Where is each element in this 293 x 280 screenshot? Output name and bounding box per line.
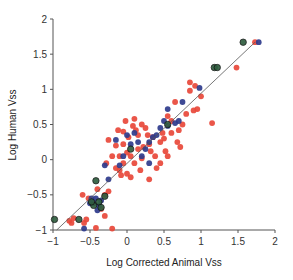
data-point	[128, 174, 134, 180]
data-point	[161, 136, 167, 142]
data-point	[146, 160, 152, 166]
x-tick-label: 0.5	[157, 236, 171, 247]
data-point	[176, 127, 182, 133]
data-point	[163, 148, 169, 154]
data-point	[120, 153, 126, 159]
data-point	[177, 144, 183, 150]
y-tick-label: 1.5	[33, 49, 47, 60]
data-point	[194, 106, 200, 112]
y-tick-label: −1	[36, 225, 48, 236]
data-point	[115, 127, 121, 133]
x-tick-label: 2	[272, 236, 278, 247]
data-point	[180, 99, 186, 105]
data-point	[148, 148, 154, 154]
data-point	[139, 153, 145, 159]
data-point	[76, 216, 82, 222]
y-tick-label: 0	[41, 154, 47, 165]
data-point	[80, 192, 86, 198]
data-point	[102, 162, 108, 168]
x-tick-label: 0	[124, 236, 130, 247]
data-point	[135, 139, 141, 145]
data-point	[187, 88, 193, 94]
data-point	[165, 106, 171, 112]
data-point	[98, 204, 104, 210]
x-ticks: −1−0.500.511.52	[47, 230, 278, 247]
data-point	[118, 172, 124, 178]
y-ticks: −1−0.500.511.52	[27, 14, 53, 236]
data-point	[152, 153, 158, 159]
data-point	[174, 139, 180, 145]
data-point	[106, 137, 112, 143]
y-tick-label: 1	[41, 84, 47, 95]
data-point	[209, 120, 215, 126]
data-point	[145, 132, 151, 138]
x-tick-label: 1	[198, 236, 204, 247]
data-point	[139, 122, 145, 128]
data-point	[143, 146, 149, 152]
data-point	[187, 79, 193, 85]
data-point	[172, 99, 178, 105]
x-tick-label: 1.5	[231, 236, 245, 247]
data-point	[102, 193, 108, 199]
data-point	[198, 93, 204, 99]
data-point	[197, 85, 203, 91]
data-point	[113, 137, 119, 143]
data-point	[214, 64, 220, 70]
data-point	[137, 167, 143, 173]
data-point	[132, 160, 138, 166]
data-point	[81, 226, 87, 232]
data-point	[234, 65, 240, 71]
data-point	[51, 216, 57, 222]
data-point	[83, 217, 89, 223]
data-point	[132, 130, 138, 136]
y-tick-label: −0.5	[27, 189, 47, 200]
data-point	[113, 143, 119, 149]
data-point	[256, 39, 262, 45]
data-point	[124, 132, 130, 138]
data-point	[109, 226, 115, 232]
data-point	[123, 118, 129, 124]
axes: −1−0.500.511.52 −1−0.500.511.52	[27, 14, 278, 248]
data-point	[109, 153, 115, 159]
data-point	[102, 213, 108, 219]
data-point	[117, 162, 123, 168]
data-point	[120, 141, 126, 147]
data-point	[157, 160, 163, 166]
data-point	[146, 176, 152, 182]
data-point	[183, 111, 189, 117]
x-tick-label: −1	[47, 236, 59, 247]
data-point	[169, 130, 175, 136]
unity-reference-line	[57, 42, 255, 230]
y-tick-label: 0.5	[33, 119, 47, 130]
data-point	[69, 220, 75, 226]
data-point	[93, 225, 99, 231]
y-tick-label: 2	[41, 14, 47, 25]
x-axis-label: Log Corrected Animal Vss	[106, 257, 222, 268]
data-point	[240, 39, 246, 45]
data-point	[154, 165, 160, 171]
data-point	[176, 118, 182, 124]
data-point	[93, 178, 99, 184]
data-point	[128, 146, 134, 152]
data-point	[165, 113, 171, 119]
data-point	[132, 116, 138, 122]
y-axis-label: Log Human Vss	[7, 89, 18, 160]
scatter-chart: −1−0.500.511.52 −1−0.500.511.52 Log Corr…	[0, 0, 293, 280]
x-tick-label: −0.5	[80, 236, 100, 247]
